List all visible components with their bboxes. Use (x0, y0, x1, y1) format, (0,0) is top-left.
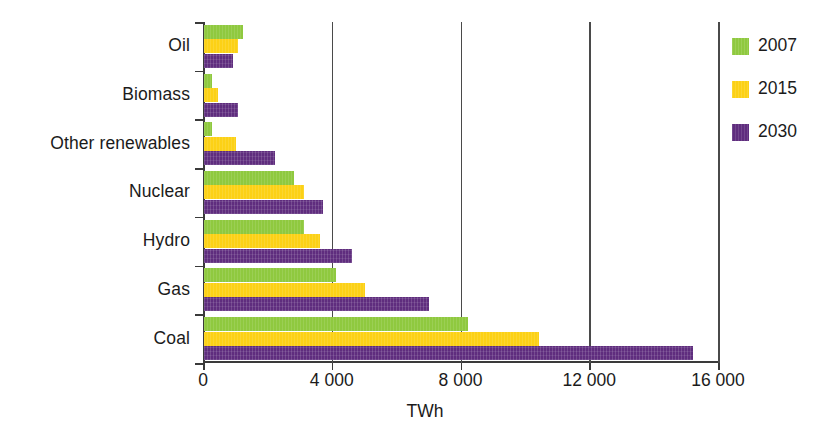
bar-2030 (204, 151, 275, 165)
bar-2015 (204, 88, 218, 102)
bar-2030 (204, 200, 323, 214)
x-tick-label: 0 (143, 372, 263, 390)
legend-item[interactable]: 2007 (732, 36, 797, 56)
bar-row: Gas (0, 266, 815, 315)
bar-2007 (204, 171, 294, 185)
legend-label: 2015 (758, 80, 797, 98)
bar-2030 (204, 297, 429, 311)
category-label: Nuclear (0, 183, 190, 201)
bar-2007 (204, 268, 336, 282)
legend-item[interactable]: 2030 (732, 122, 797, 142)
bar-2015 (204, 39, 238, 53)
bar-2015 (204, 185, 304, 199)
bar-2015 (204, 137, 236, 151)
legend-divider (718, 22, 720, 140)
bar-2030 (204, 54, 233, 68)
bar-2030 (204, 346, 693, 360)
x-tick-label: 16 000 (658, 372, 778, 390)
legend: 200720152030 (718, 22, 815, 142)
category-label: Gas (0, 281, 190, 299)
bar-row: Nuclear (0, 168, 815, 217)
legend-label: 2007 (758, 37, 797, 55)
x-tick-label: 4 000 (272, 372, 392, 390)
bar-2007 (204, 122, 212, 136)
bar-row: Other renewables (0, 119, 815, 168)
x-tick (589, 363, 591, 370)
bar-2007 (204, 74, 212, 88)
category-label: Hydro (0, 232, 190, 250)
bar-2007 (204, 317, 468, 331)
bar-2030 (204, 103, 238, 117)
bar-2007 (204, 220, 304, 234)
legend-swatch-icon (732, 124, 749, 141)
x-tick (718, 363, 720, 370)
category-label: Oil (0, 37, 190, 55)
legend-label: 2030 (758, 123, 797, 141)
category-label: Other renewables (0, 135, 190, 153)
legend-swatch-icon (732, 81, 749, 98)
bar-2015 (204, 332, 539, 346)
legend-swatch-icon (732, 38, 749, 55)
bar-2015 (204, 283, 365, 297)
y-tick (195, 363, 203, 365)
legend-item[interactable]: 2015 (732, 79, 797, 99)
bar-row: Oil (0, 22, 815, 71)
x-tick (332, 363, 334, 370)
x-tick-label: 8 000 (401, 372, 521, 390)
bar-2015 (204, 234, 320, 248)
bar-row: Hydro (0, 217, 815, 266)
bar-row: Biomass (0, 71, 815, 120)
bar-2007 (204, 25, 243, 39)
x-tick (203, 363, 205, 370)
x-tick (461, 363, 463, 370)
bar-row: Coal (0, 314, 815, 363)
bar-2030 (204, 249, 352, 263)
category-label: Coal (0, 330, 190, 348)
bar-chart: OilBiomassOther renewablesNuclearHydroGa… (0, 0, 815, 441)
x-tick-label: 12 000 (529, 372, 649, 390)
category-label: Biomass (0, 86, 190, 104)
x-axis-title-text: TWh (407, 401, 444, 422)
